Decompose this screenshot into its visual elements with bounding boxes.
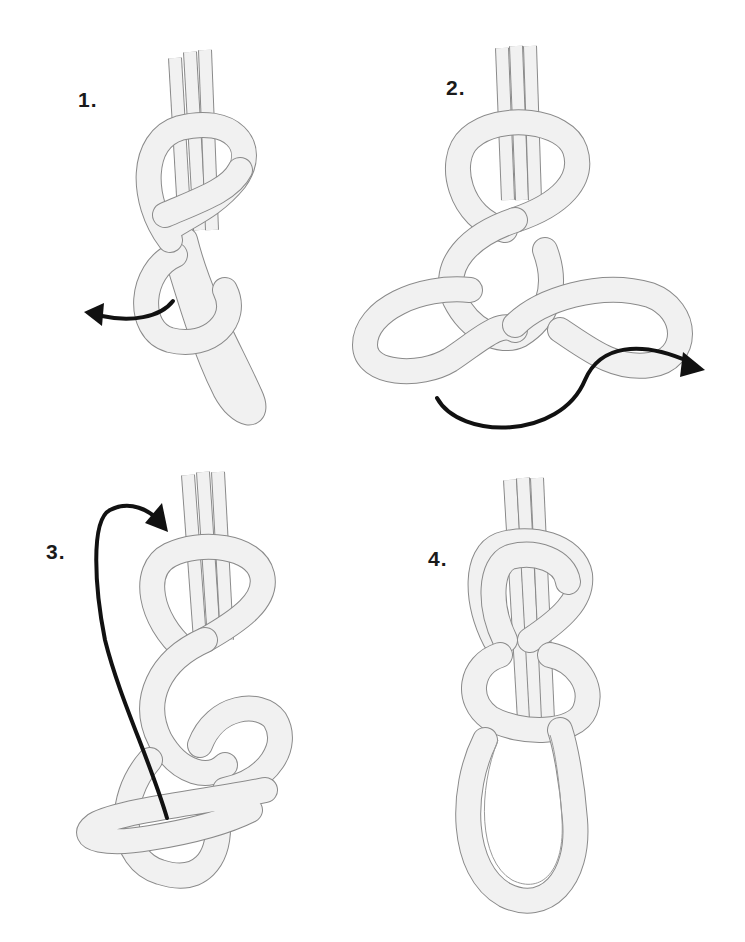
step-2-left-loop	[365, 289, 515, 371]
step-2-knot	[365, 46, 705, 428]
knot-diagram	[0, 0, 745, 942]
step-3-knot	[89, 472, 280, 875]
step-1-knot	[84, 50, 253, 412]
step-4-standing-strands	[510, 478, 548, 720]
step-3-crossing-band	[89, 790, 265, 841]
step-4-bottom-loop	[468, 730, 575, 901]
step-4-knot	[468, 478, 587, 901]
